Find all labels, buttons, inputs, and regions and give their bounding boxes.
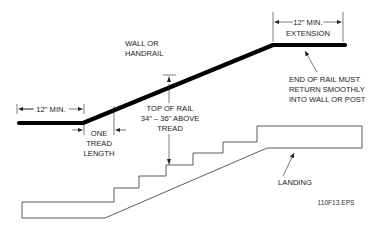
top-extension-label-1: 12" MIN. <box>293 18 322 27</box>
tread-length-label-2: TREAD <box>86 139 112 148</box>
top-of-rail-label-3: TREAD <box>157 124 183 133</box>
end-of-rail-callout: END OF RAIL MUST RETURN SMOOTHLY INTO WA… <box>289 51 366 104</box>
wall-or-handrail-label-2: HANDRAIL <box>125 49 163 58</box>
wall-or-handrail-label-1: WALL OR <box>125 39 159 48</box>
tread-length-label-1: ONE <box>91 129 107 138</box>
top-extension-label-2: EXTENSION <box>286 29 330 38</box>
top-of-rail-label-2: 34" – 36" ABOVE <box>141 114 200 123</box>
left-extension-dimension: 12" MIN. <box>17 104 84 114</box>
top-of-rail-label-1: TOP OF RAIL <box>147 104 194 113</box>
handrail-diagram: 12" MIN. 12" MIN. EXTENSION WALL OR HAND… <box>0 0 376 229</box>
figure-id: 110F13.EPS <box>318 199 356 206</box>
end-of-rail-label-2: RETURN SMOOTHLY <box>289 85 365 94</box>
end-of-rail-label-3: INTO WALL OR POST <box>289 95 366 104</box>
tread-length-label-3: LENGTH <box>84 149 115 158</box>
left-extension-label: 12" MIN. <box>36 105 65 114</box>
end-of-rail-label-1: END OF RAIL MUST <box>289 75 360 84</box>
tread-length-dimension: ONE TREAD LENGTH <box>72 106 126 158</box>
top-extension-dimension: 12" MIN. EXTENSION <box>273 12 343 42</box>
landing-callout: LANDING <box>278 153 312 187</box>
stair-outline <box>22 126 362 218</box>
landing-label: LANDING <box>278 178 312 187</box>
